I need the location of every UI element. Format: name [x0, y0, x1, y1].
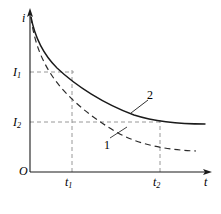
- x-tick-sub-t2: 2: [156, 181, 160, 190]
- y-tick-label-I1: I1: [13, 66, 21, 80]
- curve-label-1: 1: [104, 139, 110, 151]
- origin-label: O: [19, 165, 28, 177]
- reference-lines: [30, 70, 161, 172]
- leader-line-curve-1: [110, 127, 127, 138]
- y-tick-label-I2: I2: [13, 116, 21, 130]
- curve-2-solid: [31, 17, 205, 124]
- x-tick-sub-t1: 1: [68, 181, 72, 190]
- axes: [30, 14, 206, 172]
- plot-canvas: [0, 0, 221, 214]
- y-tick-sub-I1: 1: [17, 71, 21, 80]
- curve-1-dashed: [31, 17, 196, 151]
- curve-label-2: 2: [147, 89, 153, 101]
- y-axis-label: i: [22, 12, 25, 24]
- x-tick-label-t1: t1: [65, 176, 72, 190]
- x-axis-label: t: [204, 176, 207, 188]
- leader-line-curve-2: [131, 100, 148, 113]
- current-decay-figure: i t O I1 I2 t1 t2 1 2: [0, 0, 221, 214]
- y-tick-sub-I2: 2: [17, 121, 21, 130]
- x-tick-label-t2: t2: [153, 176, 160, 190]
